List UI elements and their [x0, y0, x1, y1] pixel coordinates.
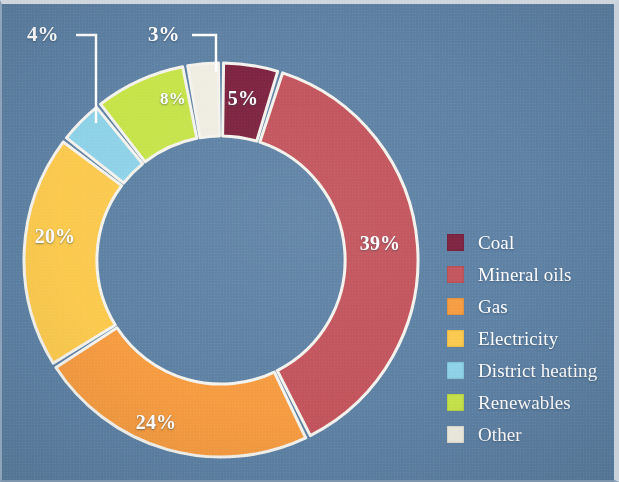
legend-swatch-icon: [447, 330, 464, 347]
legend-item-label: Coal: [478, 233, 514, 252]
donut-slice-electricity[interactable]: Electricity 20%: [24, 142, 122, 363]
legend-swatch-icon: [447, 234, 464, 251]
legend-swatch-icon: [447, 298, 464, 315]
legend-item-other[interactable]: Other: [447, 418, 597, 450]
legend-swatch-icon: [447, 394, 464, 411]
callout-label-other: 3%: [148, 22, 180, 47]
slice-label-electricity: 20%: [35, 225, 76, 248]
legend-item-label: Other: [478, 425, 522, 444]
legend-item-mineral-oils[interactable]: Mineral oils: [447, 258, 597, 290]
callout-label-district-heating: 4%: [27, 22, 59, 47]
chart-legend: CoalMineral oilsGasElectricityDistrict h…: [447, 226, 597, 450]
legend-item-electricity[interactable]: Electricity: [447, 322, 597, 354]
legend-item-label: Mineral oils: [478, 265, 572, 284]
slice-label-mineral-oils: 39%: [360, 232, 401, 255]
donut-chart: Coal 5%Mineral oils 39%Gas 24%Electricit…: [21, 60, 421, 460]
legend-item-label: Electricity: [478, 329, 558, 348]
slice-label-coal: 5%: [228, 87, 258, 110]
legend-item-label: Gas: [478, 297, 508, 316]
legend-swatch-icon: [447, 362, 464, 379]
legend-item-district-heating[interactable]: District heating: [447, 354, 597, 386]
legend-item-gas[interactable]: Gas: [447, 290, 597, 322]
donut-slices: Coal 5%Mineral oils 39%Gas 24%Electricit…: [24, 63, 418, 457]
legend-item-coal[interactable]: Coal: [447, 226, 597, 258]
legend-item-renewables[interactable]: Renewables: [447, 386, 597, 418]
slice-label-renewables: 8%: [160, 89, 186, 109]
donut-chart-svg: Coal 5%Mineral oils 39%Gas 24%Electricit…: [21, 60, 421, 460]
legend-item-label: District heating: [478, 361, 597, 380]
legend-item-label: Renewables: [478, 393, 571, 412]
donut-slice-gas[interactable]: Gas 24%: [56, 328, 306, 457]
slice-label-gas: 24%: [136, 411, 177, 434]
legend-swatch-icon: [447, 266, 464, 283]
legend-swatch-icon: [447, 426, 464, 443]
chart-canvas: Coal 5%Mineral oils 39%Gas 24%Electricit…: [0, 0, 619, 482]
